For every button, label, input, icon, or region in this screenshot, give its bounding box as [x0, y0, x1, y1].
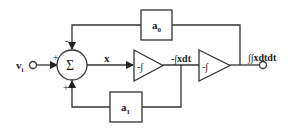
input-label: vi: [16, 59, 24, 74]
sign-top: -: [65, 35, 68, 46]
a0-feedback-path-left: [72, 25, 141, 49]
input-terminal: [30, 62, 37, 69]
block-diagram: vi Σ - + + x -∫ -∫ -∫xdt ∫∫xdtdt a0 a1: [0, 0, 292, 132]
output-label: ∫∫xdtdt: [247, 52, 277, 64]
sum-symbol: Σ: [66, 58, 74, 73]
x-label: x: [104, 52, 110, 64]
int1-output-label: -∫xdt: [171, 53, 192, 65]
a1-feedback-path-left: [72, 81, 110, 107]
sign-left: +: [53, 52, 59, 63]
sign-bottom: +: [63, 82, 69, 93]
